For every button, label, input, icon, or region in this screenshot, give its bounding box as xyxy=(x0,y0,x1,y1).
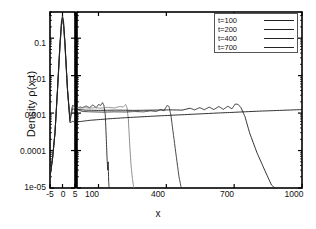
legend-swatch-t700 xyxy=(264,47,294,48)
y-axis-ticks: 0.1 0.01 0.001 0.0001 1e-05 xyxy=(0,0,46,229)
legend-swatch-t200 xyxy=(264,29,294,30)
legend: t=100 t=200 t=400 t=700 xyxy=(214,13,298,53)
legend-label-t100: t=100 xyxy=(218,16,237,25)
legend-item-t200: t=200 xyxy=(218,25,294,34)
legend-item-t400: t=400 xyxy=(218,34,294,43)
legend-swatch-t400 xyxy=(264,38,294,39)
y-axis-label: Density ρ(x,t) xyxy=(25,29,37,179)
density-profile-chart: 0.1 0.01 0.001 0.0001 1e-05 Density ρ(x,… xyxy=(0,0,316,229)
x-tick-main-1: 400 xyxy=(147,190,169,199)
y-tick-3: 0.0001 xyxy=(0,147,46,155)
legend-swatch-t100 xyxy=(264,20,294,21)
x-tick-main-2: 700 xyxy=(216,190,238,199)
legend-label-t200: t=200 xyxy=(218,25,237,34)
y-tick-1: 0.01 xyxy=(0,75,46,83)
legend-label-t400: t=400 xyxy=(218,34,237,43)
curve-main-t=700 xyxy=(77,110,302,122)
curve-inset-t=100 xyxy=(50,20,75,176)
legend-item-t700: t=700 xyxy=(218,43,294,52)
y-tick-2: 0.001 xyxy=(0,111,46,119)
y-tick-0: 0.1 xyxy=(0,39,46,47)
x-axis-label: x xyxy=(0,208,316,219)
curve-inset-t=700 xyxy=(50,16,75,177)
curve-inset-t=200 xyxy=(50,19,75,177)
x-tick-main-0: 100 xyxy=(81,190,103,199)
legend-label-t700: t=700 xyxy=(218,43,237,52)
legend-item-t100: t=100 xyxy=(218,16,294,25)
curve-main-t=100 xyxy=(77,103,109,188)
y-tick-4: 1e-05 xyxy=(0,183,46,191)
curve-inset-t=400 xyxy=(50,17,75,176)
x-tick-main-3: 1000 xyxy=(281,190,307,199)
